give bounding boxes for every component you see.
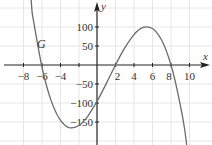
x-axis-label: x [202, 50, 208, 62]
grid [0, 0, 212, 145]
chart: x −8 −6 −4 2 4 6 8 10 y 100 50 −50 −100 … [0, 0, 212, 145]
x-tick-label: −8 [18, 70, 30, 82]
x-tick-label: −6 [36, 70, 48, 82]
y-tick-label: −50 [76, 78, 94, 90]
y-tick-label: 50 [82, 40, 94, 52]
x-tick-label: 2 [115, 70, 121, 82]
y-axis: y 100 50 −50 −100 −150 [70, 0, 106, 145]
y-axis-label: y [100, 0, 106, 12]
x-tick-label: 4 [131, 70, 137, 82]
x-tick-label: 8 [166, 70, 172, 82]
curve-g [30, 0, 187, 145]
y-tick-label: −100 [70, 97, 93, 109]
y-tick-label: 100 [77, 21, 94, 33]
x-tick-label: 6 [150, 70, 156, 82]
x-tick-label: −4 [55, 70, 67, 82]
curve-label: G [37, 37, 46, 51]
y-tick-label: −150 [70, 116, 93, 128]
x-axis: x −8 −6 −4 2 4 6 8 10 [4, 50, 210, 82]
x-tick-label: 10 [184, 70, 196, 82]
